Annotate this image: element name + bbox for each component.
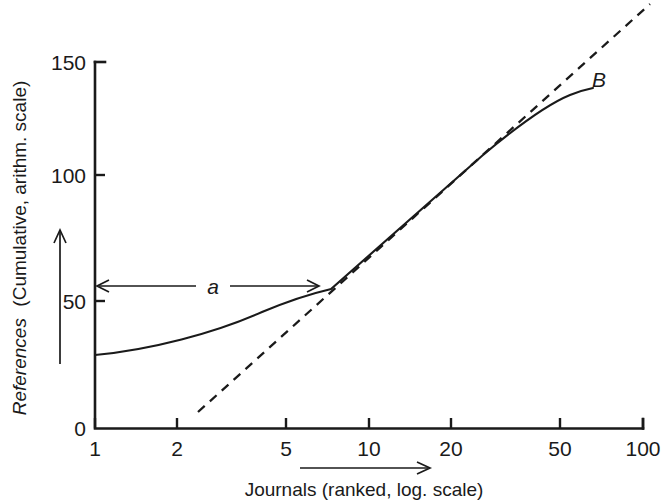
- x-tick-label-20: 20: [439, 437, 462, 460]
- y-axis-title: References (Cumulative, arithm. scale): [9, 81, 30, 416]
- axis-lines: [95, 62, 643, 429]
- y-tick-label-100: 100: [51, 164, 86, 187]
- curve-end-label-B: B: [592, 68, 606, 91]
- x-tick-label-5: 5: [280, 437, 292, 460]
- x-axis-title: Journals (ranked, log. scale): [245, 479, 484, 500]
- bradford-cumulative-curve: [95, 88, 593, 355]
- x-tick-labels: 1 2 5 10 20 50 100: [89, 437, 660, 460]
- x-tick-marks: [95, 418, 643, 429]
- y-tick-label-150: 150: [51, 51, 86, 74]
- x-tick-label-1: 1: [89, 437, 101, 460]
- x-tick-label-2: 2: [171, 437, 183, 460]
- y-tick-labels: 150 100 50 0: [51, 51, 86, 440]
- y-tick-label-0: 0: [74, 417, 86, 440]
- x-axis-direction-arrow: [300, 462, 430, 474]
- x-tick-label-50: 50: [548, 437, 571, 460]
- x-tick-label-10: 10: [357, 437, 380, 460]
- annotation-region-a: a: [97, 272, 319, 300]
- svg-text:References (Cumulative: References (Cumulative, arithm. scale): [9, 81, 30, 416]
- x-tick-label-100: 100: [625, 437, 660, 460]
- axes-group: [95, 62, 643, 429]
- y-axis-title-rest-part: (Cumulative, arithm. scale): [9, 81, 30, 307]
- bradford-law-chart: 150 100 50 0 1 2 5 10 20 50 100: [0, 0, 668, 501]
- chart-page: 150 100 50 0 1 2 5 10 20 50 100: [0, 0, 668, 501]
- y-axis-title-italic-part: References: [9, 318, 30, 416]
- y-tick-label-50: 50: [63, 290, 86, 313]
- region-a-label: a: [207, 275, 219, 298]
